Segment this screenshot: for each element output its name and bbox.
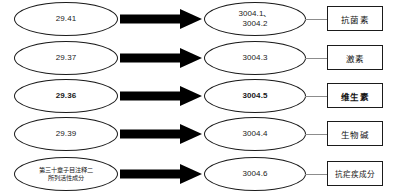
category-label-box[interactable]: 维生素 [327, 83, 383, 108]
flow-row: 29.36 3004.5 维生素 [0, 77, 394, 115]
connector-line [305, 134, 328, 135]
target-code-label: 3004.5 [242, 91, 267, 101]
target-code-ellipse[interactable]: 3004.5 [204, 79, 306, 113]
target-code-ellipse[interactable]: 3004.1、 3004.2 [204, 2, 306, 36]
target-code-ellipse[interactable]: 3004.6 [204, 157, 306, 191]
category-label-box[interactable]: 生物碱 [327, 121, 383, 146]
target-code-label: 3004.1、 3004.2 [238, 9, 271, 28]
flow-arrow-icon [120, 9, 202, 29]
category-label-text: 生物碱 [341, 128, 369, 140]
connector-line [305, 58, 328, 59]
source-ellipse-label: 第三十章子目注释二 所列活性成分 [39, 166, 93, 182]
flow-arrow-icon [120, 124, 202, 144]
flow-arrow-icon [120, 86, 202, 106]
category-label-text: 激素 [346, 52, 365, 64]
source-ellipse[interactable]: 29.39 [14, 117, 118, 151]
category-label-text: 抗菌素 [341, 13, 369, 25]
connector-line [305, 96, 328, 97]
source-ellipse-label: 29.36 [56, 91, 77, 100]
target-code-label: 3004.6 [242, 169, 267, 179]
flow-row: 29.37 3004.3 激素 [0, 39, 394, 77]
flow-diagram: 29.41 3004.1、 3004.2 抗菌素 29.37 [0, 0, 394, 196]
source-ellipse-label: 29.37 [56, 53, 77, 62]
category-label-box[interactable]: 抗疟疾成分 [327, 161, 383, 186]
source-ellipse-label: 29.39 [56, 129, 77, 138]
category-label-box[interactable]: 激素 [327, 45, 383, 70]
source-ellipse[interactable]: 29.41 [14, 2, 118, 36]
target-code-ellipse[interactable]: 3004.4 [204, 117, 306, 151]
target-code-label: 3004.4 [242, 129, 267, 139]
target-code-label: 3004.3 [242, 53, 267, 63]
source-ellipse[interactable]: 29.36 [14, 79, 118, 113]
target-code-ellipse[interactable]: 3004.3 [204, 41, 306, 75]
connector-line [305, 19, 328, 20]
source-ellipse-label: 29.41 [56, 14, 77, 23]
flow-arrow-icon [120, 48, 202, 68]
flow-arrow-icon [120, 164, 202, 184]
flow-row: 29.39 3004.4 生物碱 [0, 115, 394, 153]
source-ellipse[interactable]: 29.37 [14, 41, 118, 75]
flow-row: 第三十章子目注释二 所列活性成分 3004.6 抗疟疾成分 [0, 155, 394, 193]
category-label-box[interactable]: 抗菌素 [327, 6, 383, 31]
category-label-text: 抗疟疾成分 [335, 168, 376, 179]
connector-line [305, 174, 328, 175]
category-label-text: 维生素 [341, 90, 369, 102]
flow-row: 29.41 3004.1、 3004.2 抗菌素 [0, 0, 394, 38]
source-ellipse[interactable]: 第三十章子目注释二 所列活性成分 [14, 157, 118, 191]
